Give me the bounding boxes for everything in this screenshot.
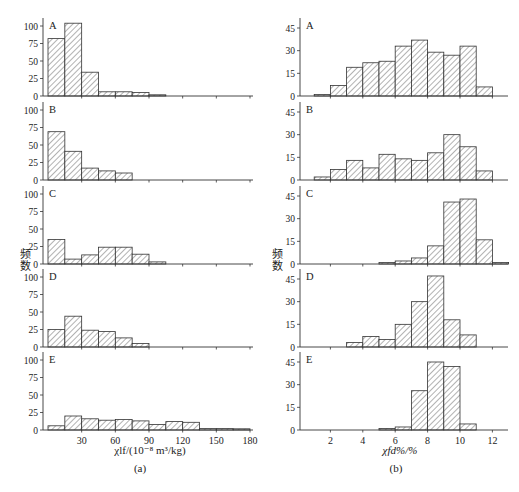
- histogram-bar: [460, 147, 476, 180]
- subfigure-label-a: (a): [120, 462, 160, 474]
- y-tick-label: 25: [29, 158, 39, 168]
- histogram-bar: [476, 171, 492, 180]
- histogram-grid: 0255075100A0255075100B0255075100C0255075…: [0, 0, 519, 492]
- y-tick-label: 0: [290, 260, 295, 270]
- chart-a-panels: 0255075100A0255075100B0255075100C0255075…: [24, 18, 258, 446]
- panel-label: D: [49, 271, 57, 282]
- panel-b-d: 0153045D: [286, 269, 509, 353]
- histogram-bar: [99, 332, 116, 347]
- panel-label: C: [306, 188, 313, 199]
- y-axis-label-b: 频数: [270, 248, 284, 272]
- y-tick-label: 0: [290, 92, 295, 102]
- histogram-bar: [115, 247, 132, 264]
- histogram-bar: [460, 46, 476, 96]
- histogram-bar: [444, 367, 460, 430]
- panel-b-a: 0153045A: [286, 18, 509, 102]
- y-tick-label: 15: [286, 320, 296, 330]
- histogram-bar: [99, 420, 116, 430]
- histogram-bar: [132, 344, 149, 348]
- y-tick-label: 45: [286, 108, 296, 118]
- y-tick-label: 15: [286, 403, 296, 413]
- histogram-bar: [82, 168, 99, 180]
- y-tick-label: 25: [29, 325, 39, 335]
- y-tick-label: 45: [286, 275, 296, 285]
- histogram-bar: [132, 421, 149, 430]
- histogram-bar: [65, 416, 82, 430]
- y-tick-label: 15: [286, 237, 296, 247]
- y-tick-label: 0: [33, 92, 38, 102]
- histogram-bar: [99, 92, 116, 96]
- histogram-bar: [460, 424, 476, 430]
- y-tick-label: 100: [24, 106, 39, 116]
- y-tick-label: 15: [286, 153, 296, 163]
- y-tick-label: 0: [33, 343, 38, 353]
- x-tick-label: 180: [243, 435, 258, 446]
- panel-label: B: [306, 104, 313, 115]
- y-tick-label: 15: [286, 69, 296, 79]
- histogram-bar: [363, 63, 379, 96]
- panel-a-d: 0255075100D: [24, 269, 253, 353]
- panel-b-e: 0153045E: [286, 352, 509, 436]
- histogram-bar: [347, 160, 363, 180]
- y-tick-label: 30: [286, 46, 296, 56]
- y-tick-label: 30: [286, 130, 296, 140]
- panel-b-c: 0153045C: [286, 186, 509, 270]
- histogram-bar: [149, 424, 166, 430]
- y-tick-label: 0: [33, 260, 38, 270]
- histogram-bar: [330, 169, 346, 180]
- y-tick-label: 30: [286, 214, 296, 224]
- y-tick-label: 100: [24, 22, 39, 32]
- y-tick-label: 50: [29, 225, 39, 235]
- histogram-bar: [183, 422, 200, 430]
- histogram-bar: [428, 52, 444, 96]
- histogram-bar: [99, 171, 116, 180]
- panel-a-b: 0255075100B: [24, 102, 253, 186]
- y-axis-label-a: 频数: [18, 248, 32, 272]
- histogram-bar: [411, 160, 427, 180]
- y-tick-label: 0: [290, 343, 295, 353]
- histogram-bar: [115, 173, 132, 180]
- histogram-bar: [411, 391, 427, 430]
- histogram-bar: [460, 199, 476, 264]
- panel-label: E: [49, 354, 55, 365]
- y-tick-label: 45: [286, 358, 296, 368]
- histogram-bar: [379, 339, 395, 347]
- y-tick-label: 100: [24, 356, 39, 366]
- y-tick-label: 0: [33, 176, 38, 186]
- histogram-bar: [444, 202, 460, 264]
- histogram-bar: [395, 46, 411, 96]
- histogram-bar: [428, 362, 444, 430]
- histogram-bar: [48, 330, 65, 348]
- histogram-bar: [460, 335, 476, 347]
- y-tick-label: 0: [290, 176, 295, 186]
- y-tick-label: 50: [29, 57, 39, 67]
- panel-a-e: 0255075100E: [24, 352, 253, 436]
- y-tick-label: 50: [29, 308, 39, 318]
- histogram-bar: [363, 336, 379, 347]
- histogram-bar: [82, 330, 99, 347]
- histogram-bar: [444, 135, 460, 180]
- y-tick-label: 25: [29, 74, 39, 84]
- panel-a-c: 0255075100C: [24, 186, 253, 270]
- histogram-bar: [428, 276, 444, 347]
- y-tick-label: 75: [29, 373, 39, 383]
- y-tick-label: 50: [29, 141, 39, 151]
- y-tick-label: 75: [29, 290, 39, 300]
- histogram-bar: [48, 426, 65, 430]
- panel-label: D: [306, 271, 314, 282]
- y-tick-label: 75: [29, 207, 39, 217]
- histogram-bar: [444, 55, 460, 96]
- histogram-bar: [428, 246, 444, 264]
- histogram-bar: [115, 92, 132, 96]
- chart-b-panels: 0153045A0153045B0153045C0153045D0153045E…: [286, 18, 509, 446]
- y-tick-label: 75: [29, 39, 39, 49]
- histogram-bar: [65, 151, 82, 180]
- histogram-bar: [132, 254, 149, 264]
- panel-label: B: [49, 104, 56, 115]
- panel-label: C: [49, 188, 56, 199]
- histogram-bar: [428, 153, 444, 180]
- histogram-bar: [347, 67, 363, 96]
- histogram-bar: [411, 40, 427, 96]
- histogram-bar: [99, 247, 116, 264]
- y-tick-label: 25: [29, 408, 39, 418]
